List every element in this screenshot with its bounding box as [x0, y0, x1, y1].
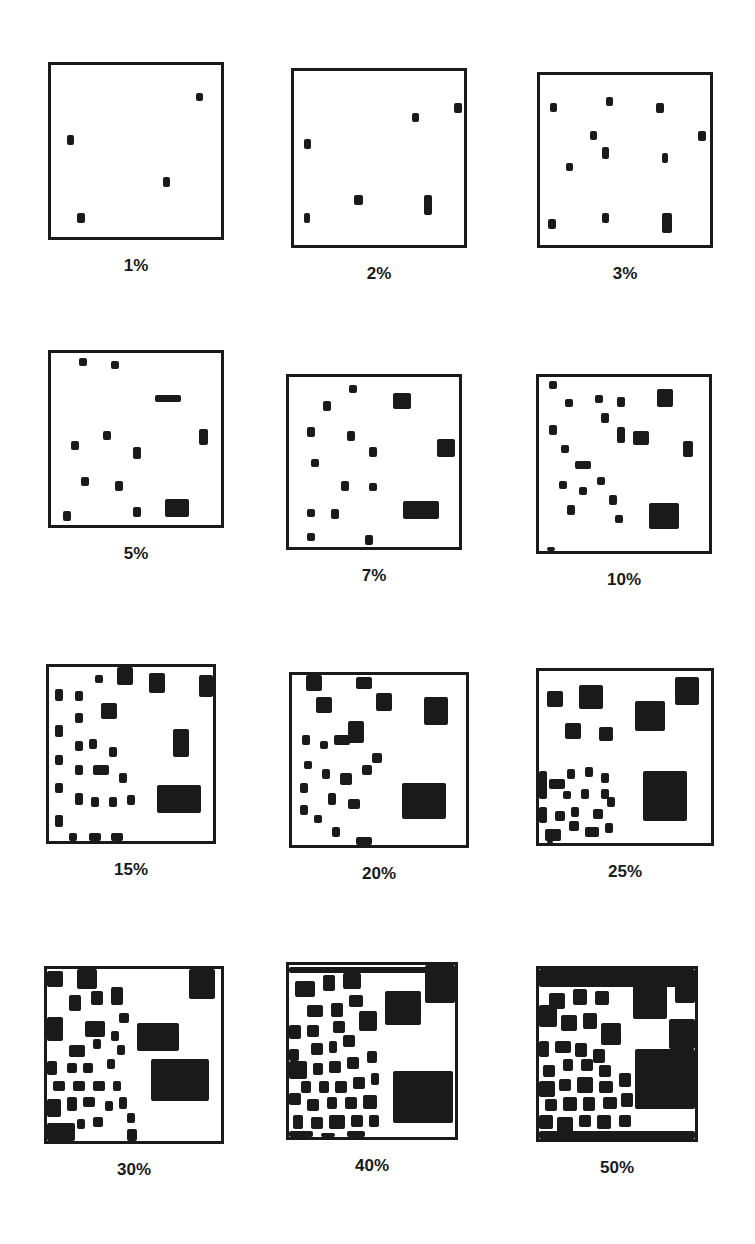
filled-patch [289, 1061, 307, 1079]
filled-patch [75, 691, 83, 701]
filled-patch [289, 1025, 301, 1039]
filled-patch [539, 1081, 555, 1097]
filled-patch [307, 1005, 323, 1017]
filled-patch [545, 1099, 557, 1111]
filled-patch [332, 827, 340, 837]
filled-patch [356, 677, 372, 689]
filled-patch [539, 969, 695, 987]
coverage-square [537, 72, 713, 248]
coverage-panel: 2% [291, 68, 467, 288]
filled-patch [403, 501, 439, 519]
filled-patch [597, 477, 605, 485]
filled-patch [111, 833, 123, 841]
filled-patch [311, 1117, 323, 1129]
filled-patch [93, 1039, 101, 1049]
coverage-panel: 1% [48, 62, 224, 280]
filled-patch [555, 1041, 571, 1053]
filled-patch [63, 511, 71, 521]
filled-patch [543, 1065, 555, 1077]
filled-patch [425, 965, 455, 1003]
filled-patch [137, 1023, 179, 1051]
filled-patch [327, 1097, 337, 1109]
filled-patch [547, 841, 553, 843]
filled-patch [549, 425, 557, 435]
filled-patch [329, 1061, 341, 1073]
filled-patch [323, 975, 335, 991]
filled-patch [675, 977, 695, 1003]
filled-patch [354, 195, 363, 205]
filled-patch [617, 397, 625, 407]
filled-patch [617, 427, 625, 443]
filled-patch [567, 505, 575, 515]
filled-patch [539, 1041, 549, 1057]
filled-patch [662, 153, 668, 163]
filled-patch [590, 131, 597, 140]
filled-patch [319, 1081, 329, 1093]
filled-patch [329, 1041, 337, 1053]
filled-patch [555, 811, 565, 821]
filled-patch [323, 401, 331, 411]
filled-patch [343, 973, 361, 989]
percentage-label: 15% [46, 860, 216, 880]
coverage-panel: 50% [536, 966, 698, 1182]
filled-patch [199, 429, 208, 445]
filled-patch [163, 177, 170, 187]
coverage-square [291, 68, 467, 248]
filled-patch [547, 691, 563, 707]
percentage-label: 3% [537, 264, 713, 284]
filled-patch [91, 991, 103, 1005]
coverage-square [286, 962, 458, 1140]
filled-patch [621, 1093, 633, 1107]
filled-patch [539, 1131, 695, 1139]
filled-patch [117, 667, 133, 685]
filled-patch [424, 697, 448, 725]
filled-patch [583, 1013, 597, 1029]
filled-patch [67, 135, 74, 145]
filled-patch [79, 358, 87, 366]
filled-patch [437, 439, 455, 457]
filled-patch [55, 815, 63, 827]
filled-patch [539, 1005, 557, 1027]
coverage-panel: 20% [289, 672, 469, 888]
filled-patch [602, 147, 609, 159]
filled-patch [657, 389, 673, 407]
filled-patch [402, 783, 446, 819]
filled-patch [293, 1115, 303, 1129]
percentage-label: 2% [291, 264, 467, 284]
coverage-square [289, 672, 469, 848]
filled-patch [149, 673, 165, 693]
filled-patch [69, 995, 81, 1011]
filled-patch [649, 503, 679, 529]
percentage-label: 25% [536, 862, 714, 882]
filled-patch [662, 213, 672, 233]
percentage-label: 40% [286, 1156, 458, 1176]
percentage-label: 10% [536, 570, 712, 590]
coverage-square [536, 668, 714, 846]
filled-patch [93, 765, 109, 775]
filled-patch [566, 163, 573, 171]
filled-patch [341, 481, 349, 491]
filled-patch [597, 1115, 611, 1129]
filled-patch [340, 773, 352, 785]
filled-patch [71, 441, 79, 450]
filled-patch [633, 431, 649, 445]
percentage-label: 5% [48, 544, 224, 564]
filled-patch [111, 1031, 119, 1041]
coverage-panel: 5% [48, 350, 224, 568]
filled-patch [67, 1063, 77, 1073]
filled-patch [569, 821, 579, 831]
filled-patch [289, 1093, 301, 1105]
filled-patch [55, 783, 63, 793]
filled-patch [393, 393, 411, 409]
filled-patch [300, 783, 308, 793]
filled-patch [698, 131, 706, 141]
filled-patch [55, 755, 63, 765]
filled-patch [316, 697, 332, 713]
filled-patch [101, 703, 117, 719]
filled-patch [307, 1025, 319, 1037]
filled-patch [47, 1017, 63, 1041]
filled-patch [89, 739, 97, 749]
filled-patch [289, 1131, 313, 1137]
filled-patch [669, 1019, 695, 1049]
filled-patch [155, 395, 181, 402]
